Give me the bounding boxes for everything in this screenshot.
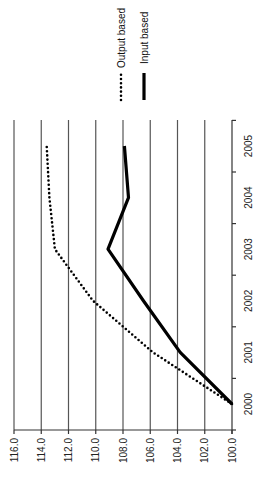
year-tick-label: 2002 xyxy=(243,289,254,312)
year-tick-label: 2005 xyxy=(243,134,254,157)
gridlines xyxy=(14,120,205,430)
value-tick-label: 112.0 xyxy=(63,438,74,463)
year-tick-label: 2003 xyxy=(243,238,254,261)
value-tick-label: 106.0 xyxy=(145,438,156,463)
value-axis-ticks: 116.0114.0112.0110.0108.0106.0104.0102.0… xyxy=(9,430,238,463)
year-tick-label: 2001 xyxy=(243,341,254,364)
legend-label: Output based xyxy=(116,8,127,68)
value-tick-label: 110.0 xyxy=(90,438,101,463)
value-tick-label: 100.0 xyxy=(227,438,238,463)
year-tick-label: 2000 xyxy=(243,392,254,415)
line-chart: 116.0114.0112.0110.0108.0106.0104.0102.0… xyxy=(0,0,262,478)
value-tick-label: 104.0 xyxy=(172,438,183,463)
value-tick-label: 114.0 xyxy=(36,438,47,463)
legend-label: Input based xyxy=(139,12,150,64)
year-tick-label: 2004 xyxy=(243,186,254,209)
value-tick-label: 108.0 xyxy=(118,438,129,463)
input-based-line xyxy=(108,146,232,404)
legend: Output basedInput based xyxy=(116,8,150,100)
value-tick-label: 102.0 xyxy=(199,438,210,463)
value-tick-label: 116.0 xyxy=(9,438,20,463)
year-axis-ticks: 200020012002200320042005 xyxy=(232,120,254,430)
